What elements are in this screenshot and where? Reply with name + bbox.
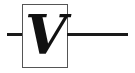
right-terminal-wire xyxy=(67,33,128,36)
left-terminal-wire xyxy=(7,33,23,36)
voltmeter-symbol: V xyxy=(22,4,68,68)
voltmeter-label: V xyxy=(23,8,67,62)
